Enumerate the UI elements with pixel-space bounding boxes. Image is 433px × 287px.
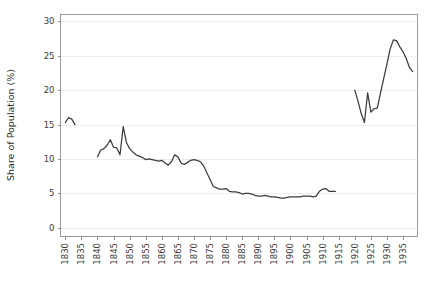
x-tick-label: 1900 [285, 243, 295, 265]
y-axis-title: Share of Population (%) [5, 69, 16, 181]
line-chart: 051015202530 183018351840184518501855186… [0, 0, 433, 287]
x-tick-label: 1845 [109, 243, 119, 265]
x-tick-label: 1935 [398, 243, 408, 265]
x-tick-label: 1840 [92, 243, 102, 265]
x-tick-label: 1925 [366, 243, 376, 265]
x-tick-label: 1910 [318, 243, 328, 265]
x-tick-label: 1870 [189, 243, 199, 265]
x-tick-label: 1920 [350, 243, 360, 265]
x-tick-label: 1835 [76, 243, 86, 265]
y-tick-label: 20 [44, 85, 55, 95]
y-tick-label: 15 [44, 120, 55, 130]
chart-figure: 051015202530 183018351840184518501855186… [0, 0, 433, 287]
x-tick-label: 1895 [269, 243, 279, 265]
x-tick-label: 1865 [173, 243, 183, 265]
x-tick-label: 1930 [382, 243, 392, 265]
x-tick-label: 1830 [60, 243, 70, 265]
x-tick-label: 1915 [334, 243, 344, 265]
x-tick-label: 1855 [141, 243, 151, 265]
x-tick-label: 1850 [125, 243, 135, 265]
x-tick-label: 1885 [237, 243, 247, 265]
x-tick-label: 1875 [205, 243, 215, 265]
x-tick-label: 1905 [302, 243, 312, 265]
x-tick-label: 1860 [157, 243, 167, 265]
y-tick-label: 10 [44, 154, 55, 164]
y-tick-label: 30 [44, 16, 55, 26]
x-tick-label: 1880 [221, 243, 231, 265]
y-tick-label: 0 [49, 223, 54, 233]
y-tick-label: 25 [44, 51, 55, 61]
y-tick-label: 5 [49, 188, 54, 198]
x-tick-label: 1890 [253, 243, 263, 265]
